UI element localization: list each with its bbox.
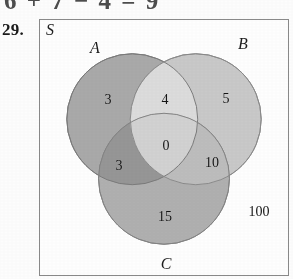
- region-count-a-and-c: 3: [116, 158, 123, 174]
- region-count-c-only: 15: [158, 209, 172, 225]
- region-count-b-only: 5: [223, 91, 230, 107]
- region-count-a-and-b: 4: [162, 92, 169, 108]
- problem-number: 29.: [2, 20, 24, 40]
- universal-set-box: S: [39, 19, 289, 276]
- set-label-b: B: [238, 35, 248, 53]
- venn-diagram: A B C 3 4 5 3 0 10 15 100: [40, 20, 288, 275]
- region-count-a-and-b-and-c: 0: [163, 138, 170, 154]
- region-count-a-only: 3: [105, 92, 112, 108]
- set-label-a: A: [90, 39, 100, 57]
- region-count-b-and-c: 10: [205, 155, 219, 171]
- region-count-outside: 100: [249, 204, 270, 220]
- scanned-page: 6 + 7 − 4 = 9 29. S: [0, 0, 293, 279]
- clipped-expression-above: 6 + 7 − 4 = 9: [4, 0, 160, 9]
- set-label-c: C: [161, 255, 172, 273]
